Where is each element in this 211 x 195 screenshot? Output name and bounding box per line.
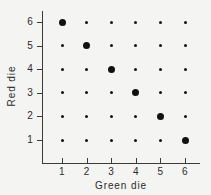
data-point [85, 115, 88, 118]
data-point [159, 91, 162, 94]
x-axis-tick-label: 5 [153, 167, 167, 177]
data-point [184, 115, 187, 118]
data-point-highlighted [83, 42, 90, 49]
x-axis-tick [185, 158, 186, 164]
data-point-highlighted [108, 66, 115, 73]
x-axis-tick [87, 158, 88, 164]
data-point [184, 68, 187, 71]
data-point-highlighted [59, 19, 66, 26]
data-point [85, 68, 88, 71]
data-point [110, 139, 113, 142]
x-axis-tick [62, 158, 63, 164]
data-point [61, 91, 64, 94]
y-axis-tick [37, 116, 43, 117]
x-axis-tick [111, 158, 112, 164]
data-point [85, 139, 88, 142]
scatter-plot: 123456 123456 Green die Red die [0, 0, 211, 195]
data-point [184, 21, 187, 24]
x-axis-title: Green die [42, 181, 200, 191]
data-point [134, 68, 137, 71]
x-axis-tick-label: 2 [80, 167, 94, 177]
x-axis-tick-label: 3 [104, 167, 118, 177]
y-axis-title: Red die [7, 46, 17, 126]
y-axis-tick-label: 1 [20, 135, 33, 145]
data-point [134, 44, 137, 47]
data-point [61, 68, 64, 71]
data-point-highlighted [182, 137, 189, 144]
x-axis-tick [136, 158, 137, 164]
data-point [159, 139, 162, 142]
data-point [110, 115, 113, 118]
data-point [85, 91, 88, 94]
data-point [184, 44, 187, 47]
data-point [134, 139, 137, 142]
y-axis-tick-label: 4 [20, 64, 33, 74]
data-point [159, 68, 162, 71]
data-point-highlighted [157, 113, 164, 120]
y-axis-tick-label: 2 [20, 111, 33, 121]
data-point [134, 115, 137, 118]
x-axis-tick-label: 1 [55, 167, 69, 177]
y-axis-tick [37, 140, 43, 141]
data-point [110, 91, 113, 94]
data-point [110, 44, 113, 47]
data-point [61, 139, 64, 142]
data-point [110, 21, 113, 24]
y-axis-tick [37, 69, 43, 70]
y-axis-tick-label: 3 [20, 88, 33, 98]
y-axis-line [42, 11, 43, 164]
data-point [159, 44, 162, 47]
data-point-highlighted [132, 89, 139, 96]
data-point [61, 44, 64, 47]
y-axis-tick-label: 6 [20, 17, 33, 27]
y-axis-tick [37, 46, 43, 47]
x-axis-line [42, 163, 200, 164]
data-point [61, 115, 64, 118]
y-axis-tick-label: 5 [20, 41, 33, 51]
y-axis-tick [37, 93, 43, 94]
x-axis-tick-label: 4 [129, 167, 143, 177]
data-point [184, 91, 187, 94]
data-point [134, 21, 137, 24]
x-axis-tick-label: 6 [178, 167, 192, 177]
y-axis-tick [37, 22, 43, 23]
data-point [85, 21, 88, 24]
data-point [159, 21, 162, 24]
x-axis-tick [160, 158, 161, 164]
